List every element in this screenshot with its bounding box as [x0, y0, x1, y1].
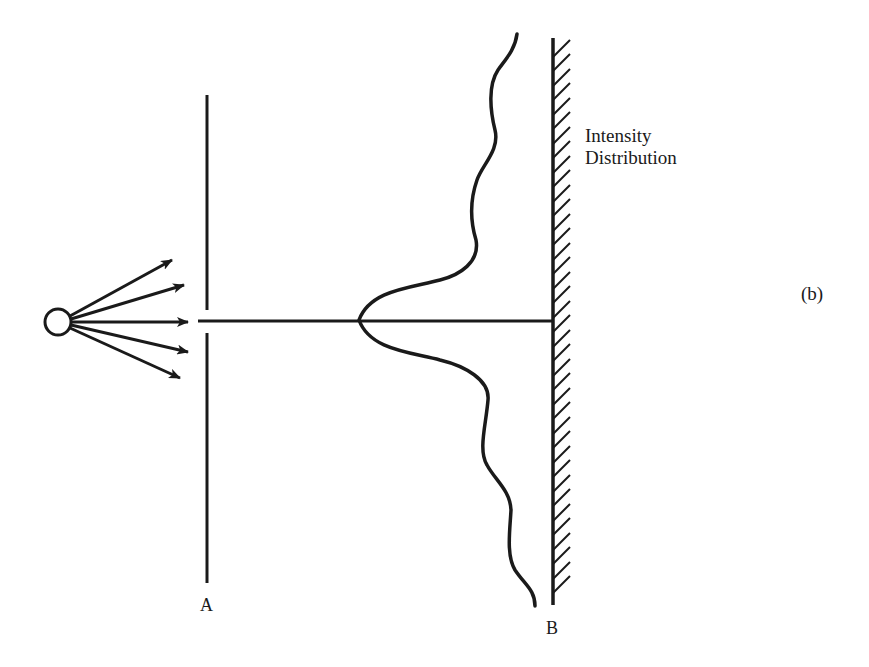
- screen-hatching: [553, 40, 570, 593]
- screen-label-b: B: [546, 618, 558, 639]
- arrow-icon: [70, 260, 172, 316]
- ray-arrows: [70, 260, 188, 378]
- arrow-icon: [70, 328, 180, 378]
- arrow-icon: [71, 325, 188, 352]
- point-source-icon: [45, 309, 71, 335]
- diffraction-diagram: [0, 0, 869, 667]
- intensity-label-line2: Distribution: [585, 147, 677, 169]
- intensity-label-line1: Intensity: [585, 125, 677, 147]
- arrow-icon: [71, 285, 184, 319]
- slit-label-a: A: [200, 595, 213, 616]
- intensity-distribution-label: Intensity Distribution: [585, 125, 677, 169]
- panel-label: (b): [801, 283, 823, 305]
